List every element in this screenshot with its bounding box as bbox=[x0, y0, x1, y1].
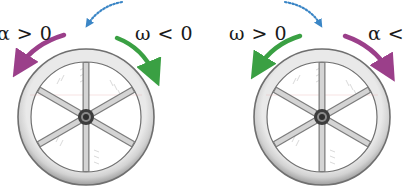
label-omega-negative: ω < 0 bbox=[135, 24, 193, 43]
rotation-diagram: α > 0 ω < 0 ω > 0 α < bbox=[0, 0, 405, 193]
diagram-graphics bbox=[0, 0, 405, 193]
connector-arrow-left bbox=[88, 2, 122, 24]
wheel-left bbox=[18, 49, 154, 185]
wheel-right bbox=[254, 49, 390, 185]
label-alpha-positive: α > 0 bbox=[0, 24, 52, 43]
label-omega-positive: ω > 0 bbox=[229, 24, 287, 43]
label-alpha-negative: α < bbox=[368, 24, 404, 43]
connector-arrow-right bbox=[285, 2, 320, 24]
